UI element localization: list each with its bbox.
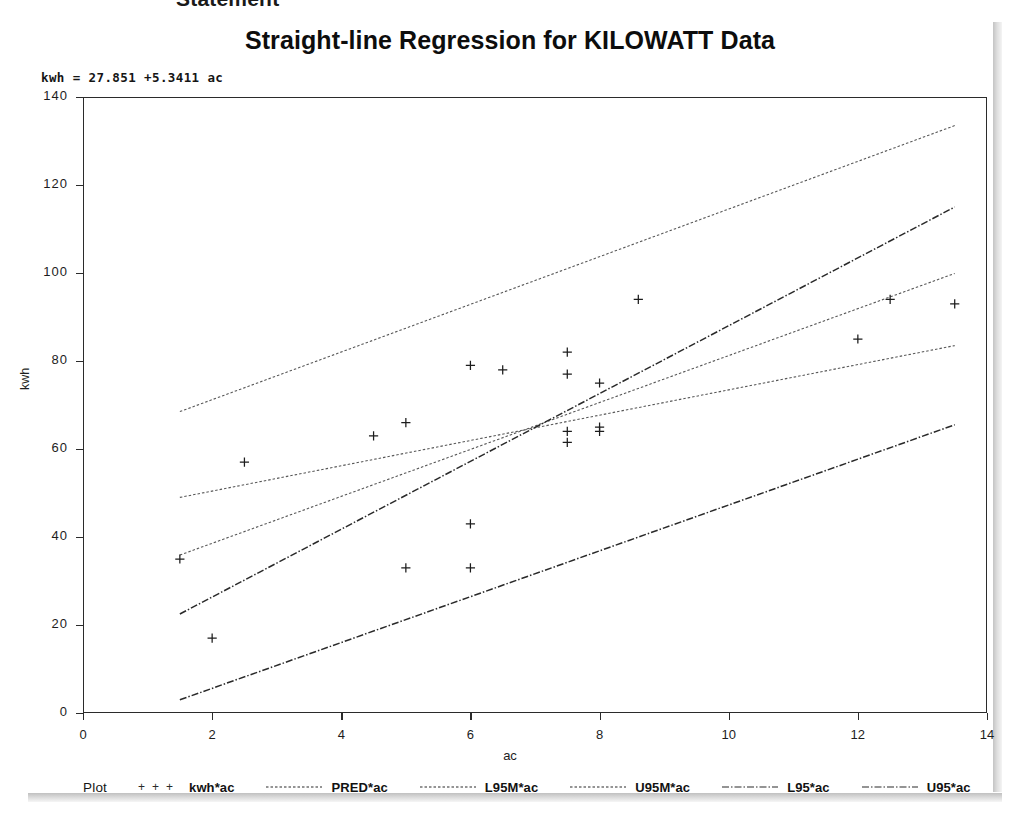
y-tick-label: 20 — [24, 616, 68, 631]
data-point-marker — [208, 634, 217, 643]
y-tick-mark — [76, 185, 83, 186]
x-tick-label: 2 — [192, 727, 232, 742]
x-tick-mark — [987, 713, 988, 720]
legend-entry-PRED-ac: PRED*ac — [266, 780, 387, 795]
data-point-marker — [401, 418, 410, 427]
y-tick-label: 120 — [24, 176, 68, 191]
series-line-U95-ac — [180, 207, 955, 614]
legend-entry-U95-ac: U95*ac — [862, 780, 971, 795]
y-tick-label: 40 — [24, 528, 68, 543]
regression-equation-annotation: kwh = 27.851 +5.3411 ac — [41, 70, 223, 85]
series-line-L95M-ac — [180, 346, 955, 498]
y-tick-mark — [76, 625, 83, 626]
chart-legend: Plot +++kwh*acPRED*acL95M*acU95M*acL95*a… — [83, 776, 963, 798]
legend-label: U95*ac — [927, 780, 971, 795]
series-points-kwh-ac — [175, 295, 959, 643]
data-point-marker — [950, 299, 959, 308]
legend-line-swatch-icon — [420, 783, 476, 791]
data-point-marker — [401, 563, 410, 572]
legend-line-swatch-icon — [266, 783, 322, 791]
data-point-marker — [595, 378, 604, 387]
legend-label: L95M*ac — [485, 780, 538, 795]
y-tick-label: 100 — [24, 264, 68, 279]
data-point-marker — [240, 458, 249, 467]
data-point-marker — [466, 519, 475, 528]
legend-label: PRED*ac — [331, 780, 387, 795]
y-tick-mark — [76, 97, 83, 98]
legend-title: Plot — [83, 780, 107, 795]
x-tick-label: 4 — [321, 727, 361, 742]
data-point-marker — [563, 348, 572, 357]
legend-line-swatch-icon — [722, 783, 778, 791]
y-tick-label: 80 — [24, 352, 68, 367]
legend-label: kwh*ac — [189, 780, 234, 795]
plot-canvas — [83, 97, 987, 713]
y-tick-mark — [76, 449, 83, 450]
data-point-marker — [498, 365, 507, 374]
x-axis-title: ac — [0, 748, 1020, 763]
x-tick-label: 8 — [580, 727, 620, 742]
x-tick-mark — [470, 713, 471, 720]
data-point-marker — [634, 295, 643, 304]
data-point-marker — [595, 427, 604, 436]
page-shadow-right — [993, 22, 1002, 792]
x-tick-label: 12 — [838, 727, 878, 742]
legend-line-swatch-icon — [862, 783, 918, 791]
legend-line-swatch-icon — [570, 783, 626, 791]
y-tick-mark — [76, 273, 83, 274]
x-tick-mark — [858, 713, 859, 720]
y-tick-mark — [76, 537, 83, 538]
x-tick-mark — [83, 713, 84, 720]
y-tick-label: 140 — [24, 88, 68, 103]
legend-label: L95*ac — [787, 780, 830, 795]
series-line-L95-ac — [180, 425, 955, 700]
data-point-marker — [886, 295, 895, 304]
y-tick-label: 60 — [24, 440, 68, 455]
x-tick-label: 6 — [450, 727, 490, 742]
chart-title: Straight-line Regression for KILOWATT Da… — [0, 26, 1020, 55]
y-tick-label: 0 — [24, 704, 68, 719]
data-point-marker — [466, 563, 475, 572]
x-tick-label: 14 — [967, 727, 1007, 742]
data-point-marker — [563, 438, 572, 447]
cropped-page-heading: Statement — [176, 0, 496, 9]
data-point-marker — [369, 431, 378, 440]
data-point-marker — [563, 427, 572, 436]
data-point-marker — [175, 554, 184, 563]
legend-entry-U95M-ac: U95M*ac — [570, 780, 690, 795]
x-tick-mark — [212, 713, 213, 720]
data-point-marker — [853, 334, 862, 343]
data-point-marker — [563, 370, 572, 379]
legend-label: U95M*ac — [635, 780, 690, 795]
x-tick-mark — [341, 713, 342, 720]
legend-entry-kwh-ac: +++kwh*ac — [133, 780, 234, 795]
legend-entry-L95-ac: L95*ac — [722, 780, 830, 795]
series-line-PRED-ac — [180, 273, 955, 555]
y-tick-mark — [76, 361, 83, 362]
data-point-marker — [466, 361, 475, 370]
x-tick-mark — [729, 713, 730, 720]
legend-plus-marker-icon: +++ — [133, 780, 185, 794]
y-axis-title: kwh — [18, 368, 32, 390]
y-tick-mark — [76, 713, 83, 714]
legend-entry-L95M-ac: L95M*ac — [420, 780, 538, 795]
x-tick-label: 10 — [709, 727, 749, 742]
x-tick-mark — [600, 713, 601, 720]
x-tick-label: 0 — [63, 727, 103, 742]
